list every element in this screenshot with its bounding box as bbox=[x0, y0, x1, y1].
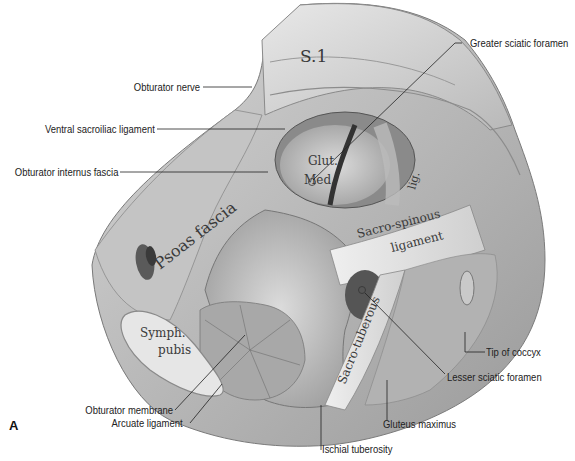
symph-text-2: pubis bbox=[158, 343, 191, 357]
pelvis-illustration: S.1 Psoas fascia Glut. Med. lig. Sacro-s… bbox=[0, 0, 575, 461]
coccyx bbox=[460, 271, 474, 305]
glut-med-text-2: Med. bbox=[304, 173, 335, 187]
symph-text-1: Symph. bbox=[140, 326, 186, 340]
callout-greater-sciatic-foramen: Greater sciatic foramen bbox=[470, 37, 568, 49]
callout-ischial-tuberosity: Ischial tuberosity bbox=[322, 443, 392, 455]
glut-med-text-1: Glut. bbox=[308, 154, 338, 168]
callout-lesser-sciatic-foramen: Lesser sciatic foramen bbox=[447, 371, 542, 383]
s1-text: S.1 bbox=[300, 46, 327, 66]
panel-letter: A bbox=[9, 418, 18, 433]
callout-tip-of-coccyx: Tip of coccyx bbox=[486, 346, 541, 358]
callout-obturator-internus-fascia: Obturator internus fascia bbox=[14, 166, 118, 178]
callout-obturator-nerve: Obturator nerve bbox=[134, 81, 200, 93]
callout-obturator-membrane: Obturator membrane bbox=[85, 404, 173, 416]
callout-gluteus-maximus: Gluteus maximus bbox=[383, 418, 456, 430]
callout-arcuate-ligament: Arcuate ligament bbox=[112, 417, 183, 429]
callout-ventral-sacroiliac-ligament: Ventral sacroiliac ligament bbox=[45, 123, 155, 135]
anatomy-figure: S.1 Psoas fascia Glut. Med. lig. Sacro-s… bbox=[0, 0, 575, 461]
